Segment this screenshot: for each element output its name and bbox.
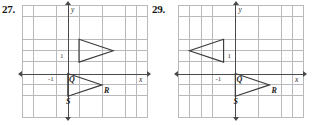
figures-27 bbox=[22, 5, 148, 118]
problem-number-27: 27. bbox=[2, 3, 15, 15]
coordinate-graph-29: y x 1 -1 Q S R bbox=[178, 5, 304, 118]
problem-29: 29. y x 1 -1 Q S R bbox=[150, 0, 320, 126]
vertex-label-q-29: Q bbox=[237, 76, 243, 84]
triangle-image-27 bbox=[79, 39, 113, 62]
triangle-image-29 bbox=[189, 39, 223, 62]
vertex-label-s-27: S bbox=[66, 98, 70, 106]
vertex-label-q-27: Q bbox=[69, 76, 75, 84]
figures-29 bbox=[178, 5, 304, 118]
problem-number-29: 29. bbox=[152, 3, 165, 15]
vertex-label-r-29: R bbox=[272, 87, 277, 95]
worksheet-page: 27. y x 1 -1 Q S R bbox=[0, 0, 320, 126]
coordinate-graph-27: y x 1 -1 Q S R bbox=[22, 5, 148, 118]
problem-27: 27. y x 1 -1 Q S R bbox=[0, 0, 160, 126]
vertex-label-r-27: R bbox=[104, 87, 109, 95]
vertex-label-s-29: S bbox=[234, 98, 238, 106]
